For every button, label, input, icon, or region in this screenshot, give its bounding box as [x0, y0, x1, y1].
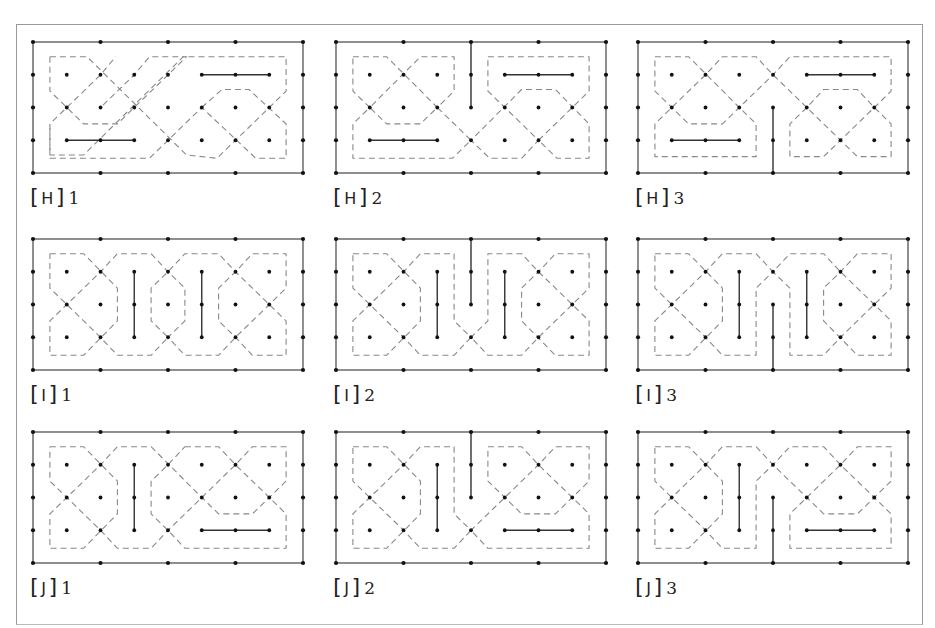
- grid-dot: [469, 528, 473, 532]
- grid-dot: [99, 528, 103, 532]
- bracket-open: [: [27, 381, 41, 406]
- frame-dot: [301, 40, 305, 44]
- frame-dot: [31, 73, 35, 77]
- grid-dot: [839, 270, 843, 274]
- bracket-close: ]: [350, 574, 364, 599]
- frame-dot: [604, 495, 608, 499]
- grid-dot: [267, 106, 271, 110]
- grid-dot: [368, 463, 372, 467]
- frame-dot: [636, 40, 640, 44]
- grid-dot: [402, 303, 406, 307]
- grid-dot: [200, 270, 204, 274]
- grid-dot: [132, 303, 136, 307]
- bracket-open: [: [330, 184, 344, 209]
- grid-dot: [435, 138, 439, 142]
- frame-dot: [166, 561, 170, 565]
- frame-dot: [604, 528, 608, 532]
- grid-dot: [537, 463, 541, 467]
- frame-dot: [604, 270, 608, 274]
- label-number: 3: [666, 578, 678, 598]
- grid-dot: [737, 496, 741, 500]
- grid-dot: [737, 335, 741, 339]
- frame-dot: [31, 495, 35, 499]
- frame-dot: [98, 368, 102, 372]
- grid-dot: [132, 463, 136, 467]
- grid-dot: [771, 528, 775, 532]
- grid-dot: [872, 270, 876, 274]
- grid-dot: [805, 463, 809, 467]
- grid-dot: [737, 106, 741, 110]
- grid-dot: [670, 463, 674, 467]
- grid-dot: [132, 138, 136, 142]
- grid-dot: [200, 138, 204, 142]
- grid-dot: [368, 496, 372, 500]
- frame-dot: [838, 561, 842, 565]
- grid-dot: [435, 270, 439, 274]
- frame-dot: [604, 463, 608, 467]
- label-letter: H: [41, 189, 54, 208]
- grid-dot: [670, 270, 674, 274]
- grid-dot: [65, 73, 69, 77]
- grid-dot: [234, 106, 238, 110]
- frame-dot: [166, 368, 170, 372]
- frame-dot: [301, 171, 305, 175]
- label-number: 2: [364, 385, 376, 405]
- grid-dot: [771, 73, 775, 77]
- grid-dot: [570, 528, 574, 532]
- grid-dot: [132, 270, 136, 274]
- grid-dot: [737, 528, 741, 532]
- frame-dot: [636, 237, 640, 241]
- frame-dot: [636, 302, 640, 306]
- label-letter: H: [344, 189, 357, 208]
- frame-dot: [604, 171, 608, 175]
- grid-dot: [132, 106, 136, 110]
- grid-dot: [805, 270, 809, 274]
- kolam-panel-j2: [334, 430, 608, 565]
- grid-dot: [670, 303, 674, 307]
- panel-label-i1: [I]1: [27, 383, 73, 405]
- frame-dot: [334, 302, 338, 306]
- grid-dot: [469, 73, 473, 77]
- frame-dot: [604, 138, 608, 142]
- grid-dot: [368, 270, 372, 274]
- grid-dot: [132, 335, 136, 339]
- frame-dot: [31, 237, 35, 241]
- grid-dot: [368, 303, 372, 307]
- grid-dot: [503, 106, 507, 110]
- frame-dot: [233, 237, 237, 241]
- grid-dot: [469, 335, 473, 339]
- frame-dot: [469, 430, 473, 434]
- grid-dot: [537, 270, 541, 274]
- frame-dot: [536, 430, 540, 434]
- grid-dot: [469, 303, 473, 307]
- frame-dot: [233, 368, 237, 372]
- frame-dot: [771, 430, 775, 434]
- grid-dot: [166, 138, 170, 142]
- frame-dot: [334, 561, 338, 565]
- panel-label-j1: [J]1: [27, 576, 73, 598]
- grid-dot: [839, 463, 843, 467]
- grid-dot: [872, 303, 876, 307]
- kolam-panel-h2: [334, 40, 608, 175]
- frame-dot: [31, 528, 35, 532]
- grid-dot: [872, 528, 876, 532]
- frame-dot: [536, 368, 540, 372]
- grid-dot: [771, 463, 775, 467]
- grid-dot: [670, 528, 674, 532]
- kolam-panel-i2: [334, 237, 608, 372]
- grid-dot: [402, 528, 406, 532]
- frame-dot: [98, 561, 102, 565]
- grid-dot: [872, 106, 876, 110]
- grid-dot: [503, 138, 507, 142]
- label-letter: H: [646, 189, 659, 208]
- grid-dot: [65, 335, 69, 339]
- grid-dot: [570, 106, 574, 110]
- bracket-open: [: [632, 381, 646, 406]
- grid-dot: [166, 270, 170, 274]
- grid-dot: [704, 463, 708, 467]
- grid-dot: [402, 463, 406, 467]
- frame-dot: [703, 561, 707, 565]
- frame-dot: [906, 138, 910, 142]
- frame-dot: [233, 561, 237, 565]
- grid-dot: [267, 528, 271, 532]
